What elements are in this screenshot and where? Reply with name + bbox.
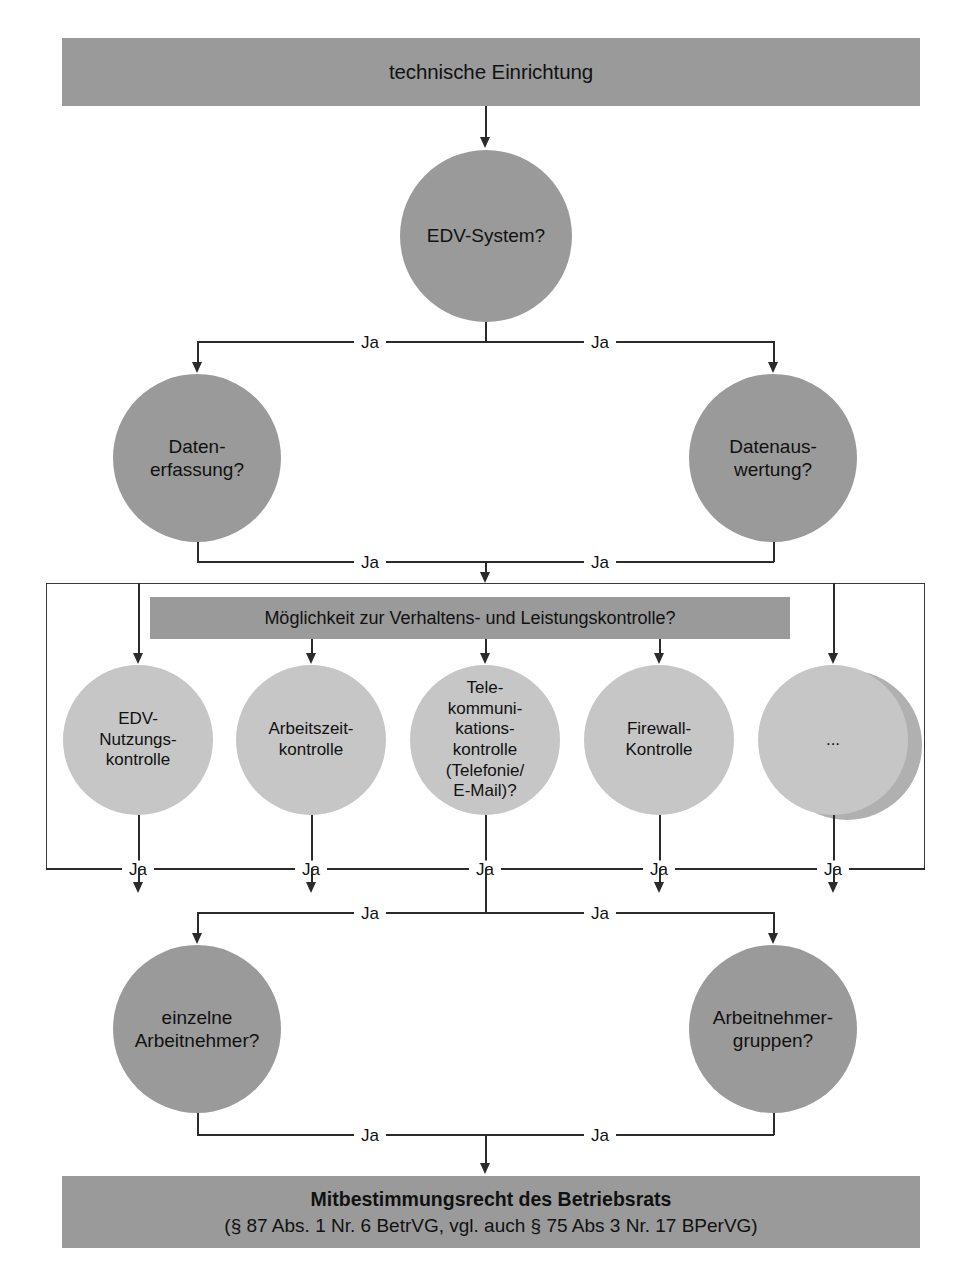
node-telekommunikationskontrolle: Tele- kommuni- kations- kontrolle (Telef… [410, 665, 560, 815]
arrowhead-to-telekommunikationskontrolle [480, 653, 490, 664]
banner-mitbestimmungsrecht: Mitbestimmungsrecht des Betriebsrats (§ … [62, 1176, 920, 1248]
edge-label-row4-right: Ja [584, 905, 616, 922]
edge-label-row4-left: Ja [354, 905, 386, 922]
connector-box-stem-1 [138, 583, 140, 655]
node-edv-nutzungskontrolle: EDV- Nutzungs- kontrolle [63, 665, 213, 815]
node-weitere-kontrollen: ... [758, 665, 908, 815]
node-edv-system: EDV-System? [400, 150, 572, 322]
edge-label-row2-right: Ja [584, 554, 616, 571]
node-datenauswertung: Datenaus- wertung? [689, 374, 857, 542]
node-arbeitszeitkontrolle-label: Arbeitszeit- kontrolle [268, 719, 353, 760]
arrowhead-to-edv-nutzungskontrolle [133, 653, 143, 664]
connector-box-stem-5 [833, 583, 835, 655]
arrowhead-to-datenerfassung [192, 362, 202, 373]
node-weitere-kontrollen-label: ... [826, 730, 840, 751]
connector-root-drop-right [773, 341, 775, 364]
banner-verhaltenskontrolle: Möglichkeit zur Verhaltens- und Leistung… [150, 597, 790, 639]
arrowhead-to-weitere-kontrollen [828, 653, 838, 664]
node-arbeitnehmergruppen: Arbeitnehmer- gruppen? [689, 945, 857, 1113]
arrowhead-to-root [480, 137, 490, 148]
connector-root-bus [197, 341, 774, 343]
connector-row4-drop-right [773, 912, 775, 935]
connector-row4-bus [197, 912, 774, 914]
connector-root-drop-left [197, 341, 199, 364]
edge-label-root-left: Ja [354, 334, 386, 351]
connector-control-drop-3 [485, 868, 487, 913]
node-edv-nutzungskontrolle-label: EDV- Nutzungs- kontrolle [99, 709, 176, 771]
arrowhead-to-arbeitszeitkontrolle [306, 653, 316, 664]
arrowhead-to-datenauswertung [768, 362, 778, 373]
connector-root-stem [485, 322, 487, 342]
node-einzelne-arbeitnehmer-label: einzelne Arbeitnehmer? [135, 1006, 260, 1052]
node-edv-system-label: EDV-System? [427, 224, 545, 247]
edge-label-result-left: Ja [354, 1127, 386, 1144]
result-title: Mitbestimmungsrecht des Betriebsrats [311, 1186, 672, 1212]
connector-top-to-root [485, 106, 487, 139]
node-arbeitnehmergruppen-label: Arbeitnehmer- gruppen? [713, 1006, 833, 1052]
arrowhead-to-control-box [480, 572, 490, 583]
edge-label-row2-left: Ja [354, 554, 386, 571]
result-citation: (§ 87 Abs. 1 Nr. 6 BetrVG, vgl. auch § 7… [224, 1213, 757, 1239]
arrowhead-to-result [480, 1163, 490, 1174]
connector-result-drop [485, 1134, 487, 1164]
arrowhead-control-drop-5 [828, 882, 838, 893]
edge-label-result-right: Ja [584, 1127, 616, 1144]
node-firewall-kontrolle-label: Firewall- Kontrolle [625, 719, 692, 760]
connector-datenauswertung-stem [773, 542, 775, 562]
arrowhead-to-arbeitnehmergruppen [768, 933, 778, 944]
connector-einzelne-stem [197, 1113, 199, 1135]
arrowhead-control-drop-4 [654, 882, 664, 893]
connector-datenerfassung-stem [197, 542, 199, 562]
node-einzelne-arbeitnehmer: einzelne Arbeitnehmer? [113, 945, 281, 1113]
node-datenerfassung-label: Daten- erfassung? [150, 435, 244, 481]
connector-row4-drop-left [197, 912, 199, 935]
node-datenauswertung-label: Datenaus- wertung? [729, 435, 817, 481]
node-telekommunikationskontrolle-label: Tele- kommuni- kations- kontrolle (Telef… [446, 678, 524, 802]
banner-top-label: technische Einrichtung [389, 60, 593, 84]
edge-label-root-right: Ja [584, 334, 616, 351]
node-datenerfassung: Daten- erfassung? [113, 374, 281, 542]
banner-technische-einrichtung: technische Einrichtung [62, 38, 920, 106]
node-firewall-kontrolle: Firewall- Kontrolle [584, 665, 734, 815]
node-arbeitszeitkontrolle: Arbeitszeit- kontrolle [236, 665, 386, 815]
banner-mid-label: Möglichkeit zur Verhaltens- und Leistung… [264, 608, 675, 629]
connector-gruppen-stem [773, 1113, 775, 1135]
arrowhead-to-einzelne-arbeitnehmer [192, 933, 202, 944]
arrowhead-control-drop-1 [133, 882, 143, 893]
arrowhead-control-drop-2 [306, 882, 316, 893]
arrowhead-to-firewall-kontrolle [654, 653, 664, 664]
flowchart-diagram: technische Einrichtung EDV-System? Ja Ja… [0, 0, 972, 1279]
